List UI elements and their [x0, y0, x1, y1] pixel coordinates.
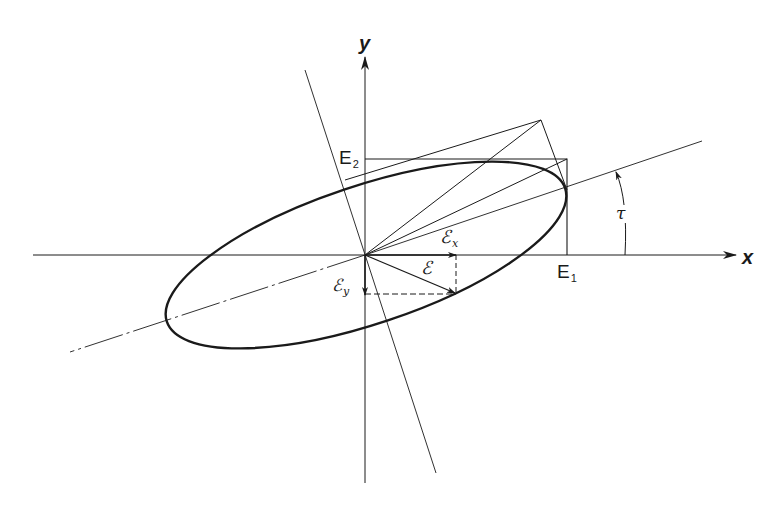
- tau-label: τ: [616, 205, 625, 222]
- field-y-label: ℰy: [332, 277, 349, 294]
- field-x-label: ℰx: [440, 228, 458, 246]
- field-vector-label: ℰ: [421, 259, 432, 277]
- diagonal-line-2: [365, 159, 567, 255]
- minor-axis-line: [305, 70, 436, 473]
- E1-label: E1: [557, 262, 577, 281]
- field-vector: [365, 255, 455, 293]
- construction-line-top: [345, 120, 541, 180]
- x-axis-label: x: [742, 247, 753, 267]
- E2-label: E2: [339, 148, 359, 167]
- y-axis-label: y: [359, 33, 370, 53]
- polarization-ellipse-diagram: y x E2 E1 τ ℰx ℰ ℰy: [0, 0, 778, 509]
- diagram-graphics: [0, 0, 778, 509]
- major-axis-line-dashed: [70, 255, 365, 352]
- construction-line-right: [541, 120, 567, 190]
